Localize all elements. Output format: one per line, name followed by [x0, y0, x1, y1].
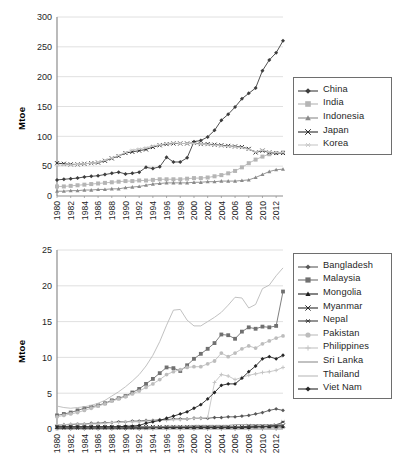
- legend-marker-icon: [297, 137, 319, 149]
- legend-item-bangladesh[interactable]: Bangladesh: [297, 258, 387, 272]
- series-marker: [178, 412, 182, 416]
- legend-label: Nepal: [323, 314, 348, 324]
- series-marker: [240, 414, 244, 418]
- series-marker: [274, 324, 278, 328]
- legend-item-india[interactable]: India: [297, 96, 387, 110]
- legend-marker-icon: [297, 286, 319, 298]
- series-marker: [178, 142, 182, 145]
- series-marker: [158, 378, 162, 382]
- series-marker: [226, 171, 230, 175]
- series-marker: [69, 177, 73, 181]
- series-marker: [219, 333, 223, 337]
- series-marker: [76, 183, 80, 187]
- series-marker: [233, 415, 237, 419]
- series-marker: [274, 368, 278, 372]
- y-tick-label: 50: [42, 161, 52, 171]
- x-tick-label: 2012: [271, 434, 281, 453]
- legend-item-malaysia[interactable]: Malaysia: [297, 272, 387, 286]
- series-marker: [82, 408, 86, 412]
- series-marker: [206, 176, 210, 180]
- series-marker: [178, 177, 182, 181]
- x-tick-label: 1984: [80, 434, 90, 453]
- series-marker: [123, 179, 127, 183]
- series-marker: [82, 175, 86, 179]
- x-tick-label: 2010: [258, 201, 268, 220]
- y-tick-label: 0: [47, 191, 52, 201]
- legend-marker-icon: [297, 313, 319, 325]
- series-marker: [274, 407, 278, 411]
- legend-item-japan[interactable]: Japan: [297, 123, 387, 137]
- legend-item-korea[interactable]: Korea: [297, 136, 387, 150]
- y-tick-label: 100: [37, 132, 52, 142]
- x-tick-label: 1992: [134, 201, 144, 220]
- series-marker: [165, 366, 169, 370]
- chart-1-block: Mtoe 05010015020025030019801982198419861…: [0, 0, 396, 233]
- series-marker: [171, 177, 175, 181]
- series-marker: [130, 179, 134, 183]
- series-marker: [233, 169, 237, 173]
- legend-label: Malaysia: [323, 273, 360, 283]
- legend-label: Sri Lanka: [323, 355, 363, 365]
- series-marker: [261, 411, 265, 415]
- legend-item-viet-nam[interactable]: Viet Nam: [297, 380, 387, 394]
- legend-item-nepal[interactable]: Nepal: [297, 312, 387, 326]
- y-tick-label: 250: [37, 42, 52, 52]
- legend-label: Myanmar: [323, 301, 362, 311]
- series-marker: [281, 334, 285, 338]
- y-tick-label: 10: [42, 353, 52, 363]
- legend-item-mongolia[interactable]: Mongolia: [297, 285, 387, 299]
- series-marker: [158, 371, 162, 375]
- series-marker: [144, 146, 148, 149]
- series-marker: [226, 374, 230, 378]
- x-tick-label: 1994: [148, 434, 158, 453]
- x-tick-label: 1980: [52, 434, 62, 453]
- legend-item-indonesia[interactable]: Indonesia: [297, 109, 387, 123]
- legend-item-china[interactable]: China: [297, 82, 387, 96]
- legend-item-pakistan[interactable]: Pakistan: [297, 326, 387, 340]
- series-marker: [267, 339, 271, 343]
- legend-label: Thailand: [323, 369, 359, 379]
- chart-1-legend: ChinaIndiaIndonesiaJapanKorea: [293, 77, 392, 155]
- series-marker: [185, 417, 189, 421]
- y-tick-label: 20: [42, 281, 52, 291]
- series-marker: [254, 412, 258, 416]
- series-marker: [158, 177, 162, 181]
- series-marker: [261, 325, 265, 329]
- legend-marker-icon: [297, 300, 319, 312]
- series-marker: [281, 366, 285, 370]
- series-marker: [219, 416, 223, 420]
- series-marker: [281, 408, 285, 412]
- series-marker: [240, 330, 244, 334]
- series-marker: [192, 176, 196, 180]
- series-marker: [151, 178, 155, 182]
- series-marker: [76, 176, 80, 180]
- series-marker: [226, 333, 230, 337]
- series-marker: [130, 149, 134, 152]
- x-tick-label: 1998: [176, 434, 186, 453]
- series-marker: [130, 420, 134, 424]
- y-tick-label: 25: [42, 245, 52, 255]
- x-tick-label: 2010: [258, 434, 268, 453]
- chart-1-y-axis-title: Mtoe: [16, 107, 27, 130]
- series-marker: [82, 162, 86, 165]
- x-tick-label: 2008: [244, 201, 254, 220]
- legend-item-philippines[interactable]: Philippines: [297, 340, 387, 354]
- series-marker: [172, 418, 176, 422]
- x-tick-label: 2002: [203, 201, 213, 220]
- legend-item-thailand[interactable]: Thailand: [297, 367, 387, 381]
- series-marker: [172, 366, 176, 370]
- series-marker: [137, 389, 141, 393]
- x-tick-label: 2006: [230, 201, 240, 220]
- series-marker: [62, 177, 66, 181]
- x-tick-label: 1986: [93, 201, 103, 220]
- series-marker: [185, 142, 189, 145]
- x-tick-label: 1984: [80, 201, 90, 220]
- series-marker: [199, 139, 203, 143]
- series-marker: [247, 344, 251, 348]
- legend-marker-icon: [297, 327, 319, 339]
- legend-item-sri-lanka[interactable]: Sri Lanka: [297, 353, 387, 367]
- x-tick-label: 1982: [66, 434, 76, 453]
- series-marker: [233, 351, 237, 355]
- series-marker: [144, 178, 148, 182]
- legend-item-myanmar[interactable]: Myanmar: [297, 299, 387, 313]
